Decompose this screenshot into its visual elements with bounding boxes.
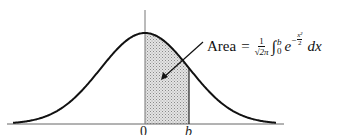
integral-limits: b 0 xyxy=(277,38,282,56)
formula-fraction: 1 √2π xyxy=(255,36,269,57)
fraction-numerator: 1 xyxy=(258,36,265,47)
tick-label-zero: 0 xyxy=(140,124,147,135)
exponent-sign: − xyxy=(291,35,296,45)
fraction-denominator: √2π xyxy=(255,47,269,57)
area-formula: Area = 1 √2π ∫ b 0 e − x² 2 dx xyxy=(207,36,322,57)
exponent-fraction: x² 2 xyxy=(297,32,302,47)
exponent-denominator: 2 xyxy=(298,40,302,47)
tick-label-b: b xyxy=(185,124,192,135)
formula-equals: = xyxy=(241,38,249,55)
shaded-area xyxy=(145,33,189,124)
exp-base: e xyxy=(284,38,291,55)
normal-curve-diagram xyxy=(0,0,338,135)
lower-limit: 0 xyxy=(277,47,282,56)
integral-symbol: ∫ xyxy=(272,38,276,56)
differential: dx xyxy=(307,38,321,55)
formula-area-label: Area xyxy=(207,38,236,55)
exponent: − x² 2 xyxy=(291,32,302,47)
